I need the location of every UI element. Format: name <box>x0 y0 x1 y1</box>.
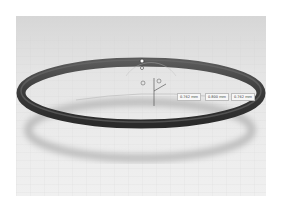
gizmo-handle-top[interactable] <box>140 59 144 63</box>
3d-viewport[interactable]: 0.762 mm 0.800 mm 0.762 mm <box>16 16 266 196</box>
dimension-label-2[interactable]: 0.800 mm <box>205 93 229 101</box>
scene-canvas <box>16 16 266 196</box>
dimension-label-1[interactable]: 0.762 mm <box>177 93 201 101</box>
dimension-label-3[interactable]: 0.762 mm <box>231 93 255 101</box>
gizmo-handle-mid[interactable] <box>141 67 144 70</box>
